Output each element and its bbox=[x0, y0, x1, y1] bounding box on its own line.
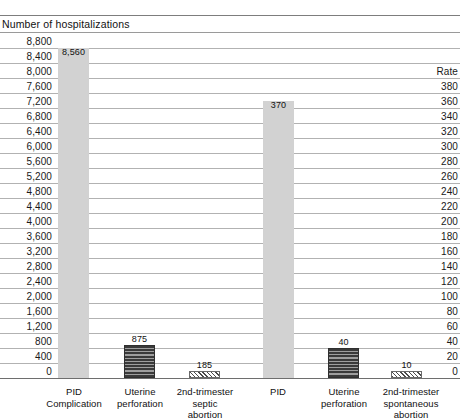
bar-chart: Number of hospitalizations 8,800 8,400 8… bbox=[0, 0, 460, 418]
category-label-septic-abortion: 2nd-trimester septic abortion bbox=[168, 386, 242, 418]
bar-value-septic-abortion: 185 bbox=[179, 361, 230, 370]
y-tick-left-13: 3,600 bbox=[0, 232, 52, 242]
y-tick-left-12: 4,000 bbox=[0, 217, 52, 227]
y-tick-right-0: 380 bbox=[398, 82, 458, 92]
y-tick-left-3: 7,600 bbox=[0, 82, 52, 92]
y-tick-left-2: 8,000 bbox=[0, 67, 52, 77]
category-line: abortion bbox=[168, 409, 242, 418]
category-line: Complication bbox=[33, 398, 115, 410]
category-line: PID bbox=[248, 386, 308, 398]
category-line: spontaneous bbox=[372, 398, 450, 410]
category-label-spontaneous-abortion: 2nd-trimester spontaneous abortion bbox=[372, 386, 450, 418]
y-tick-right-1: 360 bbox=[398, 97, 458, 107]
y-tick-right-11: 160 bbox=[398, 247, 458, 257]
y-tick-left-0: 8,800 bbox=[0, 37, 52, 47]
bar-value-pid-rate: 370 bbox=[253, 101, 304, 110]
y-tick-left-6: 6,400 bbox=[0, 127, 52, 137]
y-tick-right-13: 120 bbox=[398, 277, 458, 287]
category-line: Uterine bbox=[104, 386, 176, 398]
y-tick-left-4: 7,200 bbox=[0, 97, 52, 107]
category-label-pid-complication: PID Complication bbox=[33, 386, 115, 409]
category-line: perforation bbox=[104, 398, 176, 410]
category-line: 2nd-trimester bbox=[168, 386, 242, 398]
y-tick-left-5: 6,800 bbox=[0, 112, 52, 122]
category-label-uterine-perforation-left: Uterine perforation bbox=[104, 386, 176, 409]
y-tick-right-10: 180 bbox=[398, 232, 458, 242]
category-line: 2nd-trimester bbox=[372, 386, 450, 398]
axis-baseline bbox=[0, 378, 460, 379]
gridline-title bbox=[0, 32, 460, 33]
bar-value-uterine-perforation-left: 875 bbox=[114, 335, 165, 344]
y-tick-left-10: 4,800 bbox=[0, 187, 52, 197]
y-tick-left-15: 2,800 bbox=[0, 262, 52, 272]
category-line: PID bbox=[33, 386, 115, 398]
y-tick-left-9: 5,200 bbox=[0, 172, 52, 182]
y-tick-right-16: 60 bbox=[398, 322, 458, 332]
y-tick-left-16: 2,400 bbox=[0, 277, 52, 287]
bar-value-uterine-perforation-right: 40 bbox=[318, 338, 369, 347]
y-tick-right-12: 140 bbox=[398, 262, 458, 272]
y-tick-right-6: 260 bbox=[398, 172, 458, 182]
y-tick-right-5: 280 bbox=[398, 157, 458, 167]
y-tick-left-11: 4,400 bbox=[0, 202, 52, 212]
y-tick-left-21: 400 bbox=[0, 352, 52, 362]
bar-value-pid-complication: 8,560 bbox=[48, 48, 99, 57]
category-label-uterine-perforation-right: Uterine perforation bbox=[308, 386, 380, 409]
bar-spontaneous-abortion bbox=[391, 371, 422, 378]
bar-value-spontaneous-abortion: 10 bbox=[381, 361, 432, 370]
y-tick-left-22: 0 bbox=[0, 367, 52, 377]
y-tick-right-7: 240 bbox=[398, 187, 458, 197]
y-tick-right-9: 200 bbox=[398, 217, 458, 227]
y-tick-right-15: 80 bbox=[398, 307, 458, 317]
y-tick-right-14: 100 bbox=[398, 292, 458, 302]
y-tick-left-14: 3,200 bbox=[0, 247, 52, 257]
y-tick-left-19: 1,200 bbox=[0, 322, 52, 332]
y-tick-right-2: 340 bbox=[398, 112, 458, 122]
y-tick-right-3: 320 bbox=[398, 127, 458, 137]
y-tick-left-1: 8,400 bbox=[0, 52, 52, 62]
category-line: perforation bbox=[308, 398, 380, 410]
y-tick-left-7: 6,000 bbox=[0, 142, 52, 152]
category-label-pid-rate: PID bbox=[248, 386, 308, 398]
category-line: Uterine bbox=[308, 386, 380, 398]
y-tick-left-8: 5,600 bbox=[0, 157, 52, 167]
bar-uterine-perforation-right bbox=[328, 348, 359, 378]
y-tick-left-20: 800 bbox=[0, 337, 52, 347]
y-tick-right-4: 300 bbox=[398, 142, 458, 152]
bar-uterine-perforation-left bbox=[124, 345, 155, 378]
chart-top-border bbox=[0, 15, 460, 16]
y-tick-right-8: 220 bbox=[398, 202, 458, 212]
y-axis-title-right: Rate bbox=[398, 67, 458, 77]
y-tick-right-17: 40 bbox=[398, 337, 458, 347]
y-axis-title-left: Number of hospitalizations bbox=[2, 19, 130, 30]
y-tick-left-18: 1,600 bbox=[0, 307, 52, 317]
category-line: septic bbox=[168, 398, 242, 410]
bar-septic-abortion bbox=[189, 371, 220, 378]
category-line: abortion bbox=[372, 409, 450, 418]
y-tick-left-17: 2,000 bbox=[0, 292, 52, 302]
bar-pid-rate bbox=[263, 101, 294, 378]
bar-pid-complication bbox=[58, 48, 89, 378]
